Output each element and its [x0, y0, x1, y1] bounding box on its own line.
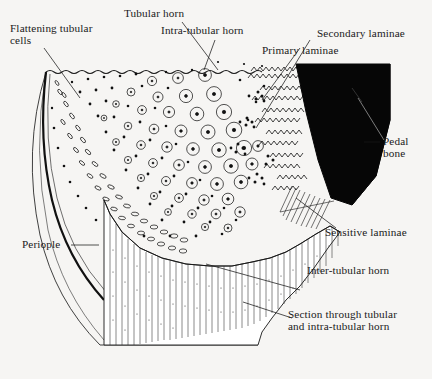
label-pedal-bone: Pedal bone: [383, 135, 431, 160]
sensitive-laminae-hatch: [280, 186, 334, 229]
label-flattening-tubular-cells: Flattening tubular cells: [10, 22, 120, 47]
intertubular-dot-field: [51, 61, 266, 241]
pedal-bone-wedge: [296, 64, 390, 205]
label-tubular-horn: Tubular horn: [124, 7, 184, 20]
label-section-through: Section through tubular and intra-tubula…: [288, 308, 428, 333]
label-primary-laminae: Primary laminae: [262, 44, 339, 57]
flattened-tubule-group: [54, 80, 188, 253]
label-periople: Periople: [22, 238, 60, 251]
label-sensitive-laminae: Sensitive laminae: [325, 226, 407, 239]
diagram-canvas: Flattening tubular cells Tubular horn In…: [0, 0, 432, 379]
leader-intra-tubular: [204, 40, 215, 70]
label-secondary-laminae: Secondary laminae: [317, 27, 405, 40]
label-inter-tubular-horn: Inter-tubular horn: [307, 264, 389, 277]
label-intra-tubular-horn: Intra-tubular horn: [161, 24, 244, 37]
